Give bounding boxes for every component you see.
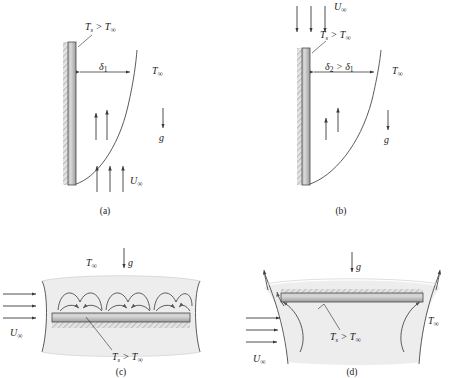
- panel-b-caption: (b): [335, 206, 346, 217]
- panel-c-caption: (c): [116, 367, 127, 378]
- figure-container: Ts > T∞ δ1 T∞ g U∞ (a) U∞ Ts > T∞ δ2 > δ…: [0, 0, 454, 378]
- panel-a-caption: (a): [100, 206, 111, 217]
- panel-c-substrate-hatch: [52, 322, 190, 328]
- panel-c-gravity-label: g: [128, 257, 133, 268]
- panel-b-plate: [302, 48, 310, 185]
- panel-d-plate: [281, 293, 423, 302]
- panel-d-substrate-hatch: [281, 289, 423, 293]
- panel-c-plate: [52, 313, 190, 322]
- panel-b-gravity-label: g: [384, 134, 389, 145]
- panel-d-caption: (d): [346, 367, 357, 378]
- panel-a-gravity-label: g: [159, 132, 164, 143]
- panel-d-gravity-label: g: [356, 261, 361, 272]
- panel-a-plate: [68, 42, 76, 185]
